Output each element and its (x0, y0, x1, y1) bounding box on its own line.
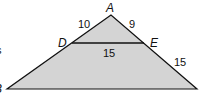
vertex-e-label: E (150, 37, 158, 49)
vertex-b-label: B (0, 83, 2, 95)
triangle-diagram (0, 0, 199, 103)
segment-ec-label: 15 (174, 57, 186, 68)
segment-de-label: 15 (103, 48, 115, 59)
vertex-a-label: A (106, 2, 114, 14)
vertex-d-label: D (58, 37, 67, 49)
cut-text-left-mid: s (0, 45, 2, 56)
triangle-abc (7, 15, 197, 89)
segment-ae-label: 9 (129, 19, 135, 30)
segment-ad-label: 10 (78, 19, 90, 30)
